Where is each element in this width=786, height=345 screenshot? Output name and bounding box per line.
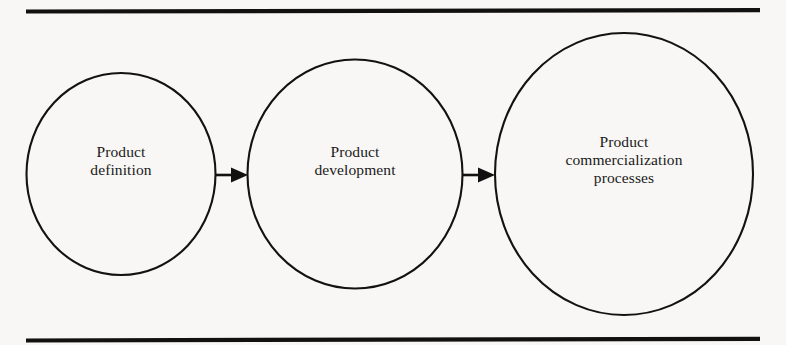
bottom-rule xyxy=(26,339,760,341)
node-label-product-development: Product development xyxy=(247,143,463,179)
top-rule xyxy=(26,10,760,11)
node-label-product-definition: Product definition xyxy=(26,143,216,179)
node-label-product-commercialization-processes: Product commercialization processes xyxy=(494,133,754,187)
process-flow-figure: Product definition Product development P… xyxy=(0,0,786,345)
